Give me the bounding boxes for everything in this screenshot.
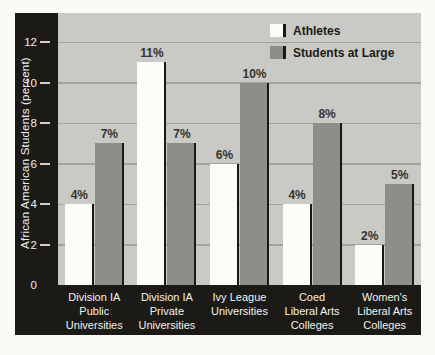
y-tick-mark bbox=[40, 122, 50, 124]
bar-value-label: 4% bbox=[288, 188, 305, 202]
students-at-large-bar bbox=[313, 123, 342, 285]
bar-wrap: 11% bbox=[137, 62, 166, 285]
athletes-bar bbox=[283, 204, 312, 285]
bar-value-label: 2% bbox=[361, 229, 378, 243]
bar-wrap: 8% bbox=[313, 123, 342, 285]
category-label-line: Liberal Arts bbox=[348, 304, 421, 318]
bar-wrap: 4% bbox=[65, 204, 94, 285]
legend-label: Athletes bbox=[293, 24, 340, 38]
category-label: Women'sLiberal ArtsColleges bbox=[348, 285, 421, 335]
y-tick-label: 6 bbox=[31, 157, 37, 171]
athletes-bar bbox=[65, 204, 94, 285]
bar-wrap: 7% bbox=[95, 143, 124, 285]
y-tick-label: 12 bbox=[24, 35, 37, 49]
category-label-line: Liberal Arts bbox=[276, 304, 349, 318]
bar-wrap: 10% bbox=[240, 83, 269, 286]
category-label: Ivy LeagueUniversities bbox=[203, 285, 276, 335]
legend-label: Students at Large bbox=[293, 46, 394, 60]
category-label-line: Division IA bbox=[131, 290, 204, 304]
category-label: CoedLiberal ArtsColleges bbox=[276, 285, 349, 335]
bar-wrap: 5% bbox=[385, 184, 414, 285]
y-tick-mark bbox=[40, 163, 50, 165]
category-label-line: Private bbox=[131, 304, 204, 318]
category-label-line: Colleges bbox=[276, 318, 349, 332]
figure-bar-chart: African American Students (percent) 0246… bbox=[0, 0, 435, 355]
students-at-large-bar bbox=[167, 143, 196, 285]
students-at-large-bar bbox=[385, 184, 414, 285]
bar-value-label: 10% bbox=[242, 67, 266, 81]
bar-value-label: 6% bbox=[216, 148, 233, 162]
category-label-line: Women's bbox=[348, 290, 421, 304]
athletes-legend-swatch bbox=[270, 24, 286, 37]
y-tick-6: 6 bbox=[15, 157, 58, 171]
x-axis-category-labels: Division IAPublicUniversitiesDivision IA… bbox=[58, 285, 421, 335]
category-label: Division IAPublicUniversities bbox=[58, 285, 131, 335]
category-label-line: Public bbox=[58, 304, 131, 318]
bar-wrap: 4% bbox=[283, 204, 312, 285]
bar-value-label: 4% bbox=[71, 188, 88, 202]
y-tick-mark bbox=[40, 203, 50, 205]
y-tick-10: 10 bbox=[15, 76, 58, 90]
bar-value-label: 11% bbox=[140, 46, 163, 60]
category-label-line: Ivy League bbox=[203, 290, 276, 304]
bar-value-label: 8% bbox=[318, 107, 335, 121]
y-tick-8: 8 bbox=[15, 116, 58, 130]
y-tick-label: 8 bbox=[31, 116, 37, 130]
bar-group: 4%7% bbox=[58, 13, 131, 285]
bar-value-label: 5% bbox=[391, 168, 408, 182]
athletes-bar bbox=[137, 62, 166, 285]
category-label-line: Universities bbox=[203, 304, 276, 318]
y-tick-12: 12 bbox=[15, 35, 58, 49]
bar-wrap: 6% bbox=[210, 164, 239, 286]
category-label: Division IAPrivateUniversities bbox=[131, 285, 204, 335]
bar-group: 11%7% bbox=[131, 13, 204, 285]
students-at-large-bar bbox=[95, 143, 124, 285]
students-at-large-bar bbox=[240, 83, 269, 286]
y-tick-0: 0 bbox=[15, 278, 58, 292]
y-tick-mark bbox=[40, 82, 50, 84]
legend-row: Athletes bbox=[270, 23, 394, 38]
axis-frame: African American Students (percent) 0246… bbox=[15, 13, 421, 335]
y-tick-2: 2 bbox=[15, 238, 58, 252]
y-tick-label: 4 bbox=[31, 197, 37, 211]
y-tick-label: 2 bbox=[31, 238, 37, 252]
legend-row: Students at Large bbox=[270, 45, 394, 60]
category-label-line: Universities bbox=[131, 318, 204, 332]
bar-wrap: 7% bbox=[167, 143, 196, 285]
plot-area: 4%7%11%7%6%10%4%8%2%5% AthletesStudents … bbox=[58, 13, 421, 285]
category-label-line: Division IA bbox=[58, 290, 131, 304]
category-label-line: Coed bbox=[276, 290, 349, 304]
bar-wrap: 2% bbox=[355, 245, 384, 286]
y-tick-label: 10 bbox=[24, 76, 37, 90]
bar-group: 6%10% bbox=[203, 13, 276, 285]
y-tick-4: 4 bbox=[15, 197, 58, 211]
y-tick-mark bbox=[40, 244, 50, 246]
y-tick-mark bbox=[40, 41, 50, 43]
athletes-bar bbox=[210, 164, 239, 286]
athletes-bar bbox=[355, 245, 384, 286]
category-label-line: Universities bbox=[58, 318, 131, 332]
y-tick-spacer bbox=[40, 284, 50, 286]
y-tick-label: 0 bbox=[31, 278, 37, 292]
legend: AthletesStudents at Large bbox=[270, 23, 394, 67]
bar-value-label: 7% bbox=[173, 127, 190, 141]
category-label-line: Colleges bbox=[348, 318, 421, 332]
bar-value-label: 7% bbox=[101, 127, 118, 141]
students-at-large-legend-swatch bbox=[270, 46, 286, 59]
